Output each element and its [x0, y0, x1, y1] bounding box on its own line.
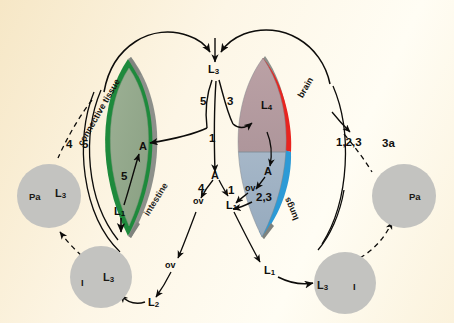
node-a-center: A	[211, 170, 219, 181]
pathway-1-center: 1	[209, 133, 215, 145]
pathway-4-left: 4	[66, 139, 72, 151]
node-a-right-organ: A	[264, 166, 272, 177]
pathway-5-center: 5	[200, 96, 206, 108]
circle-i-left-primary: L3	[103, 272, 114, 284]
branch-1-center	[214, 81, 216, 172]
arrow-center-to-left-organ-a	[150, 128, 207, 143]
circle-pa-right	[372, 164, 436, 228]
arrow-ov-to-l2	[156, 272, 171, 297]
node-l3-top-center: L3	[208, 64, 219, 76]
pathway-3a-right: 3a	[382, 138, 395, 150]
pathway-123-right: 1,2,3	[336, 137, 362, 149]
circle-pa-right-primary: Pa	[409, 192, 421, 202]
node-a-left-organ: A	[139, 141, 147, 152]
node-l2-bottom-left: L2	[148, 297, 159, 309]
pathway-23-right: 2,3	[256, 192, 272, 204]
arrow-a-to-l1-center	[219, 180, 228, 196]
pathway-1-lower-center: 1	[228, 185, 234, 197]
pathway-4-lower-left: 4	[198, 183, 204, 195]
circle-i-left-secondary: I	[81, 278, 84, 288]
pathway-5-left-inner: 5	[121, 171, 127, 183]
circle-i-right-secondary: I	[353, 282, 356, 292]
node-ov-right-organ: ov	[245, 184, 256, 193]
node-l1-bottom-right: L1	[264, 265, 275, 277]
branch-5-center	[206, 80, 212, 128]
arrow-3a-join	[332, 112, 350, 132]
node-l4-right-organ: L4	[261, 100, 272, 112]
diagram-artwork	[0, 0, 454, 323]
circle-pa-left	[17, 164, 81, 228]
arrow-ov-to-ov-lower	[178, 212, 196, 258]
node-ov-center-upper: ov	[193, 197, 204, 206]
circle-i-left	[70, 246, 132, 308]
circle-pa-left-primary: L3	[55, 188, 66, 200]
loop-123-right-outer	[322, 86, 345, 244]
diagram-canvas: connective tissue intestine brain lungs …	[0, 0, 454, 323]
node-l1-left-organ: L1	[114, 206, 125, 218]
circle-i-right-primary: L3	[317, 280, 328, 292]
arrow-l1-to-circle-i-right	[278, 277, 313, 284]
node-ov-lower-left: ov	[165, 261, 176, 270]
pathway-3-center: 3	[227, 96, 233, 108]
right-host-outline	[225, 50, 305, 252]
pathway-5-left-outer: 5	[82, 139, 88, 151]
circle-pa-left-secondary: Pa	[29, 192, 41, 202]
node-l1-center: L1	[226, 200, 237, 212]
